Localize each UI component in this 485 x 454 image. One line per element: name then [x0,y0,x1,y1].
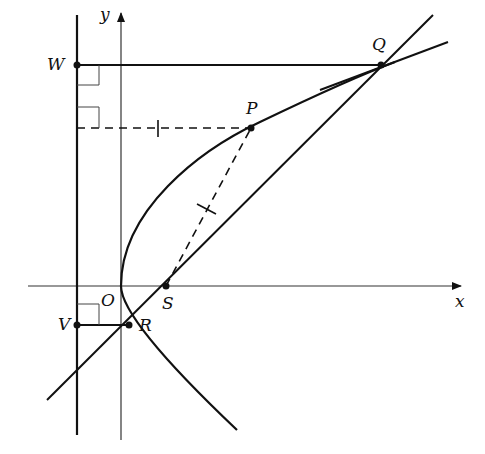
right-angle-marker-p [77,107,99,128]
point-w [74,62,81,69]
label-q: Q [372,34,386,54]
point-q [378,62,385,69]
right-angle-marker-v [77,304,99,325]
parabola-diagram: y x W Q P O S V R [0,0,485,454]
label-w: W [47,54,66,74]
label-y-axis: y [99,4,110,24]
parabola-curve [121,62,395,430]
point-r [126,322,133,329]
label-s: S [162,293,174,313]
right-angle-marker-w [77,65,99,85]
label-p: P [245,98,258,118]
label-v: V [58,314,72,334]
point-s [163,283,170,290]
point-v [74,322,81,329]
point-p [248,125,255,132]
focal-chord-line [47,15,433,400]
equal-tick-sp [197,204,216,214]
label-o: O [101,290,115,310]
label-x-axis: x [455,291,465,311]
label-r: R [138,315,152,335]
